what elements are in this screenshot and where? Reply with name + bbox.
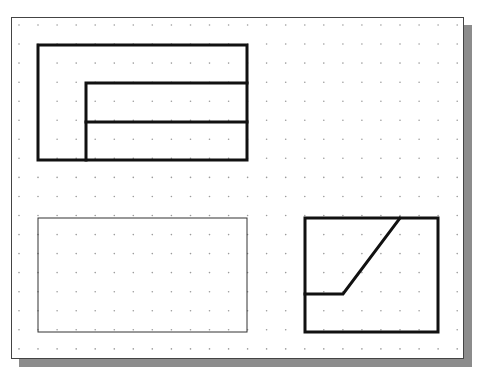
grid-dot (399, 62, 401, 64)
grid-dot (266, 177, 268, 179)
grid-dot (171, 348, 173, 350)
grid-dot (228, 196, 230, 198)
grid-dot (323, 215, 325, 217)
grid-dot (323, 348, 325, 350)
grid-dot (171, 177, 173, 179)
grid-dot (171, 215, 173, 217)
grid-dot (380, 348, 382, 350)
grid-dot (171, 310, 173, 312)
grid-dot (18, 120, 20, 122)
grid-dot (75, 234, 77, 236)
grid-dot (114, 348, 116, 350)
grid-dot (418, 139, 420, 141)
grid-dot (190, 215, 192, 217)
grid-dot (266, 215, 268, 217)
grid-dot (456, 158, 458, 160)
grid-dot (399, 253, 401, 255)
grid-dot (266, 329, 268, 331)
grid-dot (171, 139, 173, 141)
grid-dot (75, 348, 77, 350)
grid-dot (94, 253, 96, 255)
grid-dot (285, 177, 287, 179)
grid-dot (380, 24, 382, 26)
grid-dot (361, 24, 363, 26)
grid-dot (361, 43, 363, 45)
grid-dot (304, 196, 306, 198)
top-view-thin-rect[interactable] (38, 218, 247, 332)
grid-dot (399, 291, 401, 293)
grid-dot (361, 196, 363, 198)
grid-dot (285, 158, 287, 160)
grid-dot (247, 196, 249, 198)
grid-dot (437, 120, 439, 122)
grid-dot (418, 253, 420, 255)
front-view-outer-rect[interactable] (38, 45, 247, 160)
drawing-stage (0, 0, 480, 370)
grid-dot (437, 24, 439, 26)
grid-dot (133, 291, 135, 293)
grid-dot (114, 272, 116, 274)
grid-dot (342, 196, 344, 198)
grid-dot (56, 81, 58, 83)
grid-dot (285, 215, 287, 217)
grid-dot (228, 177, 230, 179)
side-view-slanted-edge[interactable] (305, 218, 400, 294)
grid-dot (94, 348, 96, 350)
grid-dot (266, 348, 268, 350)
grid-dot (37, 348, 39, 350)
grid-dot (285, 253, 287, 255)
grid-dot (94, 234, 96, 236)
grid-dot (418, 62, 420, 64)
grid-dot (380, 177, 382, 179)
grid-dot (133, 139, 135, 141)
grid-dot (56, 24, 58, 26)
grid-dot (456, 291, 458, 293)
grid-dot (18, 215, 20, 217)
grid-dot (285, 24, 287, 26)
grid-dot (342, 177, 344, 179)
drawing-layer[interactable] (0, 0, 480, 370)
grid-dot (285, 348, 287, 350)
grid-dot (94, 177, 96, 179)
side-view-rect[interactable] (305, 218, 438, 332)
grid-dot (114, 329, 116, 331)
grid-dot (399, 81, 401, 83)
grid-dot (266, 139, 268, 141)
grid-dot (437, 158, 439, 160)
grid-dot (437, 196, 439, 198)
grid-dot (342, 215, 344, 217)
grid-dot (323, 158, 325, 160)
grid-dot (266, 272, 268, 274)
grid-dot (304, 43, 306, 45)
grid-dot (323, 100, 325, 102)
grid-dot (152, 215, 154, 217)
grid-dot (361, 253, 363, 255)
grid-dot (209, 177, 211, 179)
grid-dot (190, 62, 192, 64)
grid-dot (266, 291, 268, 293)
grid-dot (56, 272, 58, 274)
grid-dot (437, 348, 439, 350)
grid-dot (18, 62, 20, 64)
grid-dot (342, 310, 344, 312)
grid-dot (266, 81, 268, 83)
grid-dot (380, 196, 382, 198)
grid-dot (75, 291, 77, 293)
grid-dot (133, 215, 135, 217)
grid-dot (247, 24, 249, 26)
grid-dot (380, 43, 382, 45)
grid-dot (304, 100, 306, 102)
grid-dot (94, 310, 96, 312)
grid-dot (399, 196, 401, 198)
grid-dot (18, 43, 20, 45)
grid-dot (342, 253, 344, 255)
grid-dot (285, 81, 287, 83)
grid-dot (361, 81, 363, 83)
grid-dot (114, 253, 116, 255)
grid-dot (399, 329, 401, 331)
grid-dot (37, 24, 39, 26)
grid-dot (133, 177, 135, 179)
grid-dot (228, 253, 230, 255)
grid-dot (399, 215, 401, 217)
grid-dot (209, 348, 211, 350)
